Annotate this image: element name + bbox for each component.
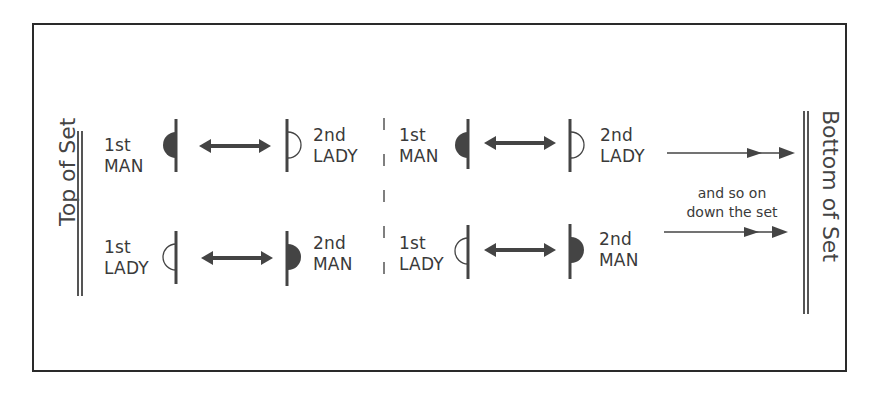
progression-arrow-bottom — [664, 224, 794, 240]
filled-half-circle-icon — [567, 224, 589, 282]
double-arrow-icon — [484, 133, 556, 153]
g1-top-right-label: 2nd LADY — [313, 125, 358, 167]
bottom-of-set-double-line — [803, 111, 809, 314]
open-half-circle-icon — [284, 119, 306, 174]
g2-top-right-label: 2nd LADY — [600, 125, 645, 167]
double-arrow-icon — [484, 240, 556, 260]
g1-top-left-label: 1st MAN — [104, 135, 144, 177]
g2-top-left-label: 1st MAN — [399, 125, 439, 167]
open-half-circle-icon — [452, 225, 472, 283]
bottom-of-set-label: Bottom of Set — [818, 110, 843, 310]
g2-bottom-left-label: 1st LADY — [399, 233, 444, 275]
g2-bottom-right-label: 2nd MAN — [599, 229, 639, 271]
group-separator-dashed-line — [382, 118, 386, 290]
top-of-set-double-line — [77, 131, 83, 296]
filled-half-circle-icon — [452, 119, 472, 174]
open-half-circle-icon — [160, 231, 180, 286]
double-arrow-icon — [201, 248, 273, 268]
g1-bottom-left-label: 1st LADY — [104, 237, 149, 279]
double-arrow-icon — [199, 136, 271, 156]
and-so-on-note: and so on down the set — [672, 184, 792, 222]
open-half-circle-icon — [567, 119, 589, 174]
filled-half-circle-icon — [160, 119, 180, 174]
filled-half-circle-icon — [284, 231, 306, 286]
progression-arrow-top — [667, 145, 797, 161]
g1-bottom-right-label: 2nd MAN — [313, 233, 353, 275]
